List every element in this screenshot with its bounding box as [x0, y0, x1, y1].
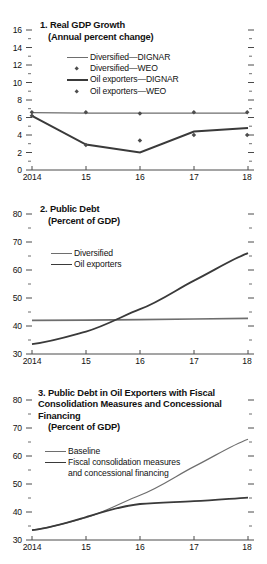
legend-label: Diversified — [74, 248, 113, 259]
x-tick-label: 2014 — [17, 542, 47, 552]
series-oil-exporters-dignar-1 — [32, 116, 248, 153]
x-tick-label: 18 — [232, 542, 262, 552]
legend-panel-1: Diversified—DIGNAR Diversified—WEO Oil e… — [66, 52, 179, 97]
chart-panel-public-debt-oil-exporters-fiscal: 80 70 60 50 40 30 2014 15 16 17 18 3. Pu… — [0, 376, 267, 562]
legend-label: Oil exporters—DIGNAR — [90, 74, 179, 85]
x-tick-label: 2014 — [17, 356, 47, 366]
plot-area-panel-2: 80 70 60 50 40 30 2014 15 16 17 18 — [0, 192, 267, 370]
y-tick-label: 8 — [2, 95, 22, 105]
y-tick-label: 70 — [2, 423, 22, 433]
x-tick-label: 15 — [71, 356, 101, 366]
x-axis-ticks-3 — [32, 536, 248, 540]
y-tick-label: 60 — [2, 265, 22, 275]
series-diversified-2 — [32, 318, 248, 320]
y-tick-label: 60 — [2, 451, 22, 461]
y-tick-label: 14 — [2, 43, 22, 53]
x-tick-label: 18 — [232, 172, 262, 182]
legend-label: Diversified—WEO — [90, 63, 158, 74]
legend-label: Fiscal consolidation measures and conces… — [68, 457, 180, 479]
legend-item: Oil exporters—DIGNAR — [66, 74, 179, 85]
x-axis-ticks-1 — [32, 166, 248, 170]
legend-panel-3: Baseline Fiscal consolidation measures a… — [44, 446, 180, 480]
legend-item: Oil exporters — [50, 259, 121, 270]
panel-title: 1. Real GDP Growth — [40, 20, 125, 31]
y-tick-label: 40 — [2, 321, 22, 331]
legend-item: Diversified—DIGNAR — [66, 52, 179, 63]
legend-item: Oil exporters—WEO — [66, 86, 179, 97]
legend-item: Baseline — [44, 446, 180, 457]
legend-line-swatch — [44, 457, 68, 468]
panel-2-svg — [0, 192, 267, 370]
legend-item: Fiscal consolidation measures and conces… — [44, 457, 180, 479]
x-tick-label: 16 — [125, 542, 155, 552]
x-axis-ticks-2 — [32, 350, 248, 354]
x-tick-label: 2014 — [17, 172, 47, 182]
y-axis-ticks-left-1 — [26, 30, 32, 170]
legend-panel-2: Diversified Oil exporters — [50, 248, 121, 270]
legend-marker-swatch — [66, 86, 90, 97]
panel-title: 2. Public Debt — [40, 204, 99, 215]
series-fiscal-consolidation-3 — [32, 498, 248, 531]
y-axis-ticks-right-2 — [248, 214, 254, 354]
legend-item: Diversified—WEO — [66, 63, 179, 74]
y-tick-label: 4 — [2, 130, 22, 140]
y-axis-ticks-left-3 — [26, 400, 32, 540]
y-tick-label: 70 — [2, 237, 22, 247]
y-tick-label: 50 — [2, 293, 22, 303]
y-tick-label: 50 — [2, 479, 22, 489]
y-axis-ticks-left-2 — [26, 214, 32, 354]
y-tick-label: 6 — [2, 113, 22, 123]
panel-subtitle: (Annual percent change) — [48, 32, 154, 43]
legend-label: Diversified—DIGNAR — [90, 52, 170, 63]
x-tick-label: 16 — [125, 356, 155, 366]
y-tick-label: 80 — [2, 209, 22, 219]
legend-line-swatch — [50, 259, 74, 270]
legend-marker-swatch — [66, 63, 90, 74]
legend-line-swatch — [50, 248, 74, 259]
legend-label: Baseline — [68, 446, 100, 457]
chart-panel-public-debt: 80 70 60 50 40 30 2014 15 16 17 18 2. Pu… — [0, 192, 267, 370]
legend-label: Oil exporters—WEO — [90, 86, 166, 97]
x-tick-label: 16 — [125, 172, 155, 182]
y-tick-label: 12 — [2, 60, 22, 70]
legend-item: Diversified — [50, 248, 121, 259]
y-axis-ticks-right-1 — [248, 30, 254, 170]
x-tick-label: 15 — [71, 172, 101, 182]
legend-line-swatch — [44, 446, 68, 457]
panel-subtitle: (Percent of GDP) — [48, 216, 120, 227]
panel-title: 3. Public Debt in Oil Exporters with Fis… — [38, 388, 253, 422]
panel-subtitle: (Percent of GDP) — [48, 422, 120, 433]
y-tick-label: 10 — [2, 78, 22, 88]
y-tick-label: 40 — [2, 507, 22, 517]
x-tick-label: 15 — [71, 542, 101, 552]
legend-line-swatch — [66, 74, 90, 85]
x-tick-label: 17 — [179, 356, 209, 366]
y-tick-label: 16 — [2, 25, 22, 35]
x-tick-label: 17 — [179, 542, 209, 552]
x-tick-label: 17 — [179, 172, 209, 182]
y-tick-label: 2 — [2, 148, 22, 158]
legend-line-swatch — [66, 52, 90, 63]
legend-label: Oil exporters — [74, 259, 121, 270]
y-tick-label: 80 — [2, 395, 22, 405]
figure-public-debt-and-growth: 16 14 12 10 8 6 4 2 0 2014 15 16 17 18 1… — [0, 0, 267, 564]
x-tick-label: 18 — [232, 356, 262, 366]
chart-panel-real-gdp-growth: 16 14 12 10 8 6 4 2 0 2014 15 16 17 18 1… — [0, 8, 267, 186]
